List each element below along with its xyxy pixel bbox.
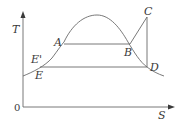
ts-diagram: T S 0 A B C D E' E [0, 0, 189, 126]
point-C-label: C [144, 5, 153, 18]
point-D-label: D [149, 61, 159, 74]
y-axis-label: T [12, 23, 21, 36]
point-B-label: B [123, 46, 132, 59]
y-axis-arrow-icon [21, 11, 26, 18]
line-B-C [130, 17, 147, 44]
origin-label: 0 [14, 102, 20, 113]
point-E-prime-label: E' [30, 53, 42, 66]
x-axis-label: S [158, 109, 166, 122]
point-E-label: E [34, 69, 43, 82]
x-axis-arrow-icon [168, 105, 175, 110]
point-A-label: A [53, 36, 62, 49]
